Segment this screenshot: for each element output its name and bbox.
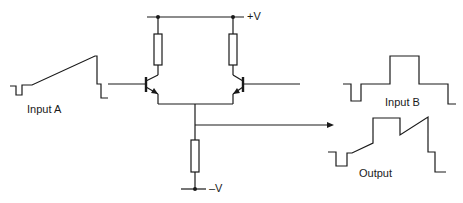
left-transistor bbox=[108, 75, 158, 104]
output-arrow bbox=[195, 122, 334, 128]
tail-resistor bbox=[181, 140, 206, 191]
right-transistor bbox=[233, 75, 300, 104]
input-a-waveform bbox=[10, 56, 108, 98]
output-label: Output bbox=[359, 167, 392, 179]
positive-supply-label: +V bbox=[247, 10, 261, 22]
differential-amplifier-diagram: +V –V Input A Input B Output bbox=[0, 0, 463, 203]
input-b-label: Input B bbox=[385, 96, 420, 108]
emitter-node bbox=[158, 104, 233, 140]
left-collector-resistor bbox=[154, 17, 162, 75]
output-waveform bbox=[328, 117, 446, 172]
right-collector-resistor bbox=[229, 17, 237, 75]
negative-supply-label: –V bbox=[209, 182, 222, 194]
input-a-label: Input A bbox=[27, 103, 61, 115]
positive-supply-rail bbox=[147, 15, 244, 19]
